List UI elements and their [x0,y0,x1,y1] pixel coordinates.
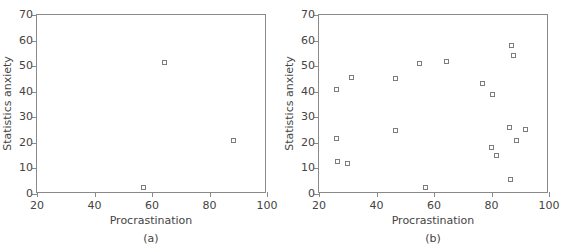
x-tick-label-a-20: 20 [30,199,44,212]
x-axis-title-a: Procrastination [36,214,266,227]
data-point [393,128,398,133]
plot-frame-a: 01020304050607020406080100 [36,14,266,193]
x-tick-mark-b-40 [377,192,378,197]
y-tick-label-a-20: 20 [19,136,33,149]
x-tick-mark-b-20 [319,192,320,197]
panel-caption-b: (b) [318,232,548,245]
y-tick-label-a-60: 60 [19,34,33,47]
y-axis-title-b-text: Statistics anxiety [283,56,296,151]
panel-b: Statistics anxiety 010203040506070204060… [282,0,564,252]
y-tick-label-b-10: 10 [301,161,315,174]
y-tick-label-b-60: 60 [301,34,315,47]
data-point [423,185,428,190]
data-point [523,127,528,132]
x-tick-mark-a-100 [267,192,268,197]
data-point [490,92,495,97]
y-axis-title-a: Statistics anxiety [0,14,14,193]
data-point [514,138,519,143]
data-point [162,60,167,65]
data-point [494,153,499,158]
x-tick-mark-a-60 [152,192,153,197]
data-point [480,81,485,86]
data-point [507,125,512,130]
plot-area-b: 01020304050607020406080100 [319,15,547,192]
data-point [141,185,146,190]
x-tick-label-b-60: 60 [427,199,441,212]
data-point [231,138,236,143]
data-point [489,145,494,150]
x-tick-label-a-60: 60 [145,199,159,212]
x-tick-mark-b-100 [549,192,550,197]
data-point [335,159,340,164]
plot-frame-b: 01020304050607020406080100 [318,14,548,193]
panel-caption-a: (a) [36,232,266,245]
y-axis-title-a-text: Statistics anxiety [1,56,14,151]
y-tick-label-b-20: 20 [301,136,315,149]
y-tick-label-a-70: 70 [19,8,33,21]
x-tick-mark-b-80 [492,192,493,197]
data-point [444,59,449,64]
y-tick-label-a-40: 40 [19,85,33,98]
data-point [508,177,513,182]
x-tick-label-a-40: 40 [88,199,102,212]
y-tick-label-a-50: 50 [19,59,33,72]
x-axis-title-b: Procrastination [318,214,548,227]
data-point [393,76,398,81]
scatterplot-figure: Statistics anxiety 010203040506070204060… [0,0,564,252]
y-tick-label-b-40: 40 [301,85,315,98]
data-point [511,53,516,58]
data-point [509,43,514,48]
y-tick-label-a-30: 30 [19,110,33,123]
data-point [417,61,422,66]
data-point [349,75,354,80]
plot-area-a: 01020304050607020406080100 [37,15,265,192]
data-point [345,161,350,166]
x-tick-label-b-20: 20 [312,199,326,212]
x-tick-label-b-80: 80 [485,199,499,212]
y-tick-label-b-50: 50 [301,59,315,72]
x-tick-label-a-80: 80 [203,199,217,212]
x-tick-label-b-100: 100 [539,199,560,212]
x-tick-label-b-40: 40 [370,199,384,212]
data-point [334,136,339,141]
x-tick-mark-a-80 [210,192,211,197]
x-tick-mark-a-40 [95,192,96,197]
y-tick-label-b-30: 30 [301,110,315,123]
x-tick-mark-a-20 [37,192,38,197]
y-tick-label-b-70: 70 [301,8,315,21]
x-tick-mark-b-60 [434,192,435,197]
panel-a: Statistics anxiety 010203040506070204060… [0,0,282,252]
x-tick-label-a-100: 100 [257,199,278,212]
data-point [334,87,339,92]
y-axis-title-b: Statistics anxiety [282,14,296,193]
y-tick-label-a-10: 10 [19,161,33,174]
